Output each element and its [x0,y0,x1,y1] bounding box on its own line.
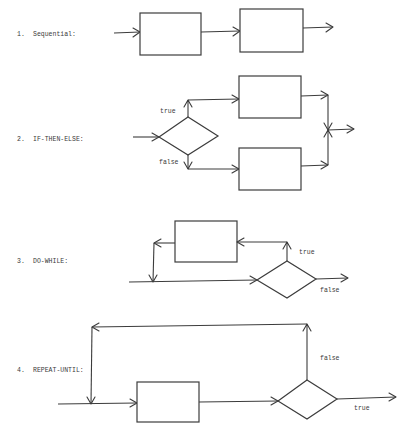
flow-arrow [58,403,137,404]
flow-arrow [153,243,154,282]
false-label: false [320,287,340,294]
flow-arrow [114,32,140,33]
process-box [140,13,201,55]
flow-arrow [201,31,240,32]
flow-arrow [91,327,92,404]
process-box [240,9,303,52]
decision-diamond [159,117,218,155]
true-label: true [354,405,370,412]
section-label-sequential: Sequential: [33,31,76,38]
flow-arrow [303,27,333,28]
section-number: 1. [17,31,25,38]
flow-arrow [301,165,328,166]
if-then-else-structure: 2. IF-THEN-ELSE: true false [17,76,354,190]
flow-arrow [328,129,354,130]
process-box-then [239,76,301,118]
section-number: 2. [17,136,25,143]
process-box [137,382,199,422]
process-box-else [239,148,301,190]
feedback-line [92,324,307,327]
section-number: 4. [17,367,25,374]
flow-arrow [129,280,257,282]
do-while-structure: 3. DO-WHILE: true false [17,221,348,298]
control-flow-diagram: 1. Sequential: 2. IF-THEN-ELSE: true fal… [0,0,411,438]
flow-arrow [337,397,396,399]
section-number: 3. [17,258,25,265]
flow-arrow [316,278,348,279]
flow-arrow [301,95,328,96]
sequential-structure: 1. Sequential: [17,9,333,55]
decision-diamond [257,261,316,298]
section-label-do-while: DO-WHILE: [33,258,68,265]
flow-arrow [199,401,278,402]
true-label: true [299,249,315,256]
false-label: false [320,355,340,362]
section-label-repeat-until: REPEAT-UNTIL: [33,367,84,374]
flow-arrow [188,99,239,100]
true-label: true [160,108,176,115]
false-label: false [159,159,179,166]
decision-diamond [278,380,337,419]
section-label-if-then-else: IF-THEN-ELSE: [33,136,84,143]
process-box [175,221,237,262]
repeat-until-structure: 4. REPEAT-UNTIL: false true [17,323,396,422]
